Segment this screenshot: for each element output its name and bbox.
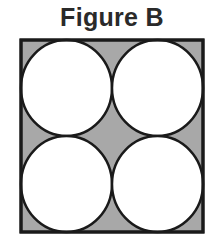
circle-bottom-left — [21, 136, 112, 232]
circle-bottom-right — [112, 136, 203, 232]
circle-top-left — [21, 40, 112, 136]
figure-title: Figure B — [0, 2, 205, 32]
circle-top-right — [112, 40, 203, 136]
square-with-four-circles-diagram — [19, 38, 205, 234]
